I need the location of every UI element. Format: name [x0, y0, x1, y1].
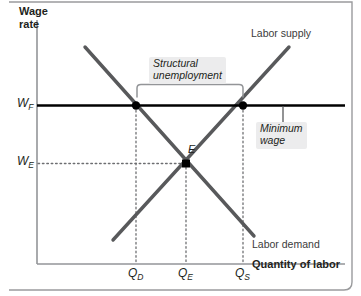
- x-tick-qd-symbol: Q: [128, 266, 137, 280]
- x-tick-label-qe: QE: [178, 267, 193, 283]
- y-tick-label-wf: WF: [17, 97, 34, 113]
- x-axis-title: Quantity of labor: [252, 258, 340, 270]
- labor-demand-label: Labor demand: [252, 239, 320, 251]
- structural-unemployment-line2: unemployment: [153, 70, 222, 82]
- y-axis-title-line2: rate: [19, 18, 48, 31]
- diagram-canvas: [0, 0, 361, 296]
- x-tick-label-qs: QS: [235, 267, 250, 283]
- structural-unemployment-line1: Structural: [153, 58, 222, 70]
- labor-market-diagram: Wage rate Quantity of labor WF WE QD QE …: [0, 0, 361, 296]
- labor-supply-label: Labor supply: [251, 28, 311, 40]
- minimum-wage-line2: wage: [260, 135, 303, 147]
- y-tick-we-symbol: W: [17, 154, 28, 168]
- x-tick-qd-subscript: D: [137, 272, 143, 282]
- minimum-wage-line1: Minimum: [260, 123, 303, 135]
- x-tick-qe-subscript: E: [187, 272, 193, 282]
- y-axis-title: Wage rate: [19, 5, 48, 30]
- y-tick-label-we: WE: [17, 155, 34, 171]
- x-tick-label-qd: QD: [128, 267, 143, 283]
- point-equilibrium: [182, 160, 190, 168]
- x-tick-qs-symbol: Q: [235, 266, 244, 280]
- point-qs-on-minimum-wage: [239, 101, 247, 109]
- x-tick-qe-symbol: Q: [178, 266, 187, 280]
- y-axis-title-line1: Wage: [19, 5, 48, 18]
- y-tick-we-subscript: E: [28, 160, 34, 170]
- x-tick-qs-subscript: S: [244, 272, 250, 282]
- equilibrium-point-label: E: [188, 143, 195, 155]
- minimum-wage-annotation: Minimum wage: [256, 122, 307, 149]
- structural-unemployment-annotation: Structural unemployment: [149, 57, 226, 84]
- y-tick-wf-symbol: W: [17, 96, 28, 110]
- point-qd-on-minimum-wage: [132, 101, 140, 109]
- y-tick-wf-subscript: F: [28, 102, 33, 112]
